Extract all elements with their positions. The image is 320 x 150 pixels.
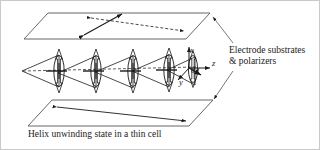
annotation-electrode-substrates: Electrode substrates & polarizers — [229, 45, 305, 67]
figure-caption: Helix unwinding state in a thin cell — [28, 129, 162, 140]
axis-label-z: z — [212, 58, 215, 68]
axis-label-theta: θ — [191, 66, 195, 75]
director-chain — [22, 48, 198, 93]
annotation-line-1: Electrode substrates — [229, 45, 305, 56]
bottom-plane — [28, 100, 213, 126]
axis-label-x: x — [190, 45, 194, 55]
figure-container: Electrode substrates & polarizers Helix … — [0, 0, 320, 150]
director-unit — [132, 48, 177, 92]
bottom-plane-polarizer-arrow — [57, 107, 186, 121]
annotation-line-2: & polarizers — [229, 56, 305, 67]
leader-line-top — [213, 17, 233, 43]
leader-line-bottom — [214, 71, 233, 99]
top-plane-polarizer-arrow — [84, 14, 122, 35]
axis-label-y: y — [179, 77, 183, 87]
top-plane-dashed-arrow — [91, 18, 184, 31]
diagram-svg — [1, 1, 320, 150]
top-plane — [24, 13, 210, 39]
